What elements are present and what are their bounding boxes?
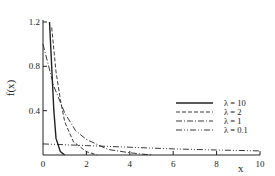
series-line	[43, 144, 260, 151]
y-axis-label: f(x)	[4, 79, 17, 96]
chart: 02468100.40.81.2 λ = 10λ = 2λ = 1λ = 0.1…	[0, 0, 275, 176]
x-tick-label: 8	[214, 159, 219, 169]
x-tick-label: 4	[128, 159, 133, 169]
y-tick-label: 1.2	[29, 17, 40, 27]
series-line	[50, 22, 65, 155]
y-tick-label: 0.8	[29, 61, 41, 71]
series-line	[43, 44, 152, 155]
x-tick-label: 2	[84, 159, 89, 169]
y-tick-label: 0.4	[29, 106, 41, 116]
legend: λ = 10λ = 2λ = 1λ = 0.1	[176, 98, 248, 135]
legend-label: λ = 0.1	[224, 125, 248, 135]
x-tick-label: 10	[256, 159, 266, 169]
x-axis-label: x	[238, 162, 244, 174]
series-line	[52, 28, 98, 155]
series-lines	[43, 22, 260, 155]
axis-ticks: 02468100.40.81.2	[29, 17, 265, 169]
x-tick-label: 6	[171, 159, 176, 169]
x-tick-label: 0	[41, 159, 46, 169]
